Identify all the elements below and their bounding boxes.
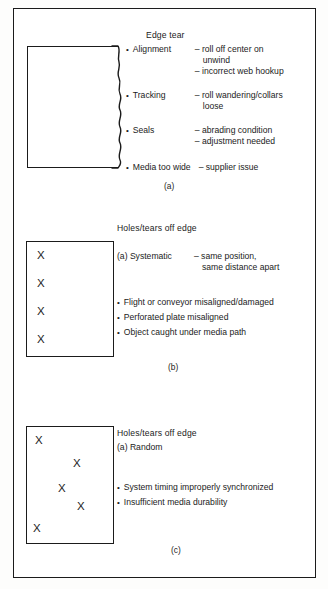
figure-page: Edge tear • Alignment – roll off center …: [0, 0, 328, 589]
bullet-icon: •: [126, 125, 129, 136]
entry-term: Media too wide: [133, 162, 199, 173]
defect-mark: X: [37, 334, 45, 346]
list-item-label: Object caught under media path: [124, 327, 246, 338]
panel-a-heading: Edge tear: [146, 30, 185, 40]
panel-c-caption: (c): [171, 545, 181, 555]
entry-details: – same position, same distance apart: [180, 251, 279, 273]
detail-line: – same position,: [194, 251, 279, 262]
defect-mark: X: [37, 250, 45, 262]
entry-term: Tracking: [133, 90, 195, 101]
panel-random-holes: Holes/tears off edge X X X X X (a) Rando…: [0, 400, 328, 580]
entry-term: Seals: [133, 125, 195, 136]
entry-details: – abrading condition – adjustment needed: [195, 125, 275, 147]
entry-seals: • Seals – abrading condition – adjustmen…: [126, 125, 275, 147]
list-item: • System timing improperly synchronized: [117, 482, 273, 493]
media-sheet-torn: [27, 46, 119, 168]
defect-mark: X: [58, 483, 66, 495]
entry-details: – supplier issue: [199, 162, 259, 173]
panel-b-heading: Holes/tears off edge: [117, 223, 197, 233]
detail-line: loose: [195, 101, 283, 112]
media-sheet-random: X X X X X: [26, 426, 114, 544]
entry-details: – roll wandering/collars loose: [195, 90, 283, 112]
detail-line: – adjustment needed: [195, 136, 275, 147]
entry-systematic: (a) Systematic – same position, same dis…: [117, 251, 279, 273]
entry-tracking: • Tracking – roll wandering/collars loos…: [126, 90, 283, 112]
entry-term: (a) Systematic: [117, 251, 180, 262]
detail-line: – roll off center on: [195, 44, 284, 55]
list-item-label: Perforated plate misaligned: [124, 312, 229, 323]
detail-line: same distance apart: [194, 262, 279, 273]
panel-a-caption: (a): [164, 181, 174, 191]
list-item-label: Insufficient media durability: [124, 497, 228, 508]
bullet-icon: •: [117, 497, 120, 508]
bullet-icon: •: [126, 162, 129, 173]
defect-mark: X: [73, 458, 81, 470]
entry-details: – roll off center on unwind – incorrect …: [195, 44, 284, 77]
list-item-label: System timing improperly synchronized: [124, 482, 274, 493]
panel-c-heading: Holes/tears off edge: [117, 428, 197, 438]
entry-random-label: (a) Random: [117, 442, 162, 453]
bullet-icon: •: [126, 90, 129, 101]
defect-mark: X: [37, 278, 45, 290]
detail-line: – supplier issue: [199, 162, 259, 173]
list-item: • Object caught under media path: [117, 327, 246, 338]
bullet-icon: •: [117, 297, 120, 308]
media-sheet-systematic: X X X X: [26, 241, 114, 357]
list-item: • Perforated plate misaligned: [117, 312, 228, 323]
bullet-icon: •: [117, 312, 120, 323]
bullet-icon: •: [117, 482, 120, 493]
entry-media-too-wide: • Media too wide – supplier issue: [126, 162, 258, 173]
bullet-icon: •: [117, 327, 120, 338]
list-item: • Insufficient media durability: [117, 497, 227, 508]
detail-line: – abrading condition: [195, 125, 275, 136]
detail-line: – incorrect web hookup: [195, 66, 284, 77]
defect-mark: X: [37, 306, 45, 318]
entry-alignment: • Alignment – roll off center on unwind …: [126, 44, 284, 77]
detail-line: – roll wandering/collars: [195, 90, 283, 101]
defect-mark: X: [35, 435, 43, 447]
entry-term: Alignment: [133, 44, 195, 55]
panel-edge-tear: Edge tear • Alignment – roll off center …: [0, 18, 328, 203]
detail-line: unwind: [195, 55, 284, 66]
panel-systematic-holes: Holes/tears off edge X X X X (a) Systema…: [0, 205, 328, 385]
list-item-label: Flight or conveyor misaligned/damaged: [124, 297, 274, 308]
bullet-icon: •: [126, 44, 129, 55]
list-item: • Flight or conveyor misaligned/damaged: [117, 297, 274, 308]
defect-mark: X: [77, 501, 85, 513]
panel-b-caption: (b): [168, 362, 178, 372]
defect-mark: X: [33, 523, 41, 535]
